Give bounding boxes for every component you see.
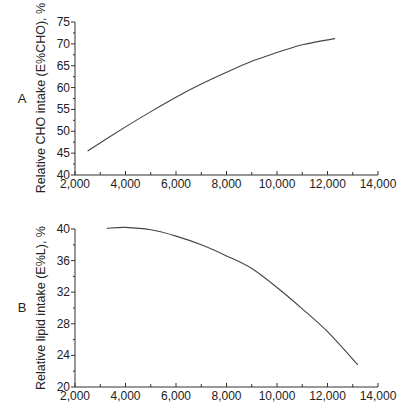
- x-tick-label: 14,000: [360, 177, 397, 191]
- x-tick-label: 4,000: [110, 177, 140, 191]
- y-tick-label: 24: [57, 348, 71, 362]
- y-tick-label: 75: [57, 15, 71, 29]
- panel-a-curve: [88, 39, 336, 151]
- x-tick-label: 10,000: [259, 177, 296, 191]
- y-tick-label: 60: [57, 81, 71, 95]
- panel-b-y-axis-title: Relative lipid intake (E%L), %: [34, 226, 48, 390]
- y-tick-label: 50: [57, 124, 71, 138]
- x-tick-label: 8,000: [211, 389, 241, 403]
- x-tick-label: 12,000: [309, 177, 346, 191]
- y-tick-label: 40: [57, 222, 71, 236]
- x-tick-label: 8,000: [211, 177, 241, 191]
- x-tick-label: 4,000: [110, 389, 140, 403]
- y-tick-label: 55: [57, 102, 71, 116]
- y-tick-label: 32: [57, 285, 71, 299]
- y-tick-label: 28: [57, 317, 71, 331]
- panel-a-label: A: [18, 91, 27, 106]
- y-tick-label: 20: [57, 380, 71, 394]
- y-tick-label: 65: [57, 59, 71, 73]
- x-tick-label: 14,000: [360, 389, 397, 403]
- y-tick-label: 45: [57, 146, 71, 160]
- x-tick-label: 6,000: [161, 177, 191, 191]
- x-tick-label: 12,000: [309, 389, 346, 403]
- panel-b-curve: [107, 227, 358, 365]
- panel-b-label: B: [18, 300, 27, 315]
- y-tick-label: 40: [57, 168, 71, 182]
- chart-figure: A Relative CHO intake (E%CHO), % 2,0004,…: [0, 0, 408, 411]
- panel-b-axes: 2,0004,0006,0008,00010,00012,00014,00020…: [57, 222, 397, 403]
- y-tick-label: 36: [57, 254, 71, 268]
- panel-a-chart: A Relative CHO intake (E%CHO), % 2,0004,…: [18, 3, 397, 193]
- x-tick-label: 10,000: [259, 389, 296, 403]
- panel-a-axes: 2,0004,0006,0008,00010,00012,00014,00040…: [57, 15, 397, 191]
- x-tick-label: 6,000: [161, 389, 191, 403]
- panel-b-chart: B Relative lipid intake (E%L), % 2,0004,…: [18, 222, 397, 403]
- panel-a-y-axis-title: Relative CHO intake (E%CHO), %: [34, 3, 48, 193]
- y-tick-label: 70: [57, 37, 71, 51]
